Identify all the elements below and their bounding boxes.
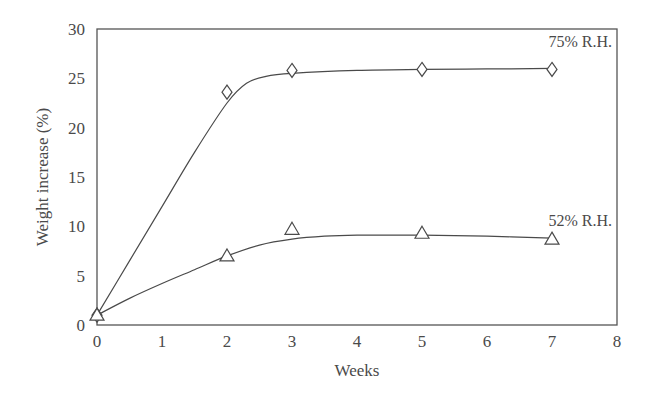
x-axis-ticks: 012345678 [93,332,622,351]
y-tick-label: 20 [68,119,85,138]
x-tick-label: 6 [483,332,492,351]
y-axis-title: Weight increase (%) [33,108,52,246]
x-tick-label: 4 [353,332,362,351]
series-layer [90,62,559,322]
series-52rh [90,222,559,320]
y-tick-label: 10 [68,217,85,236]
x-tick-label: 3 [288,332,297,351]
y-tick-label: 0 [77,316,86,335]
diamond-marker [222,85,232,99]
triangle-marker [220,249,234,261]
fit-curve [97,68,552,315]
y-axis-ticks: 051015202530 [68,20,85,335]
y-tick-label: 15 [68,168,85,187]
y-tick-label: 5 [77,267,86,286]
x-tick-label: 2 [223,332,232,351]
diamond-marker [547,62,557,76]
plot-border [97,29,617,325]
chart: 051015202530 012345678 Weeks Weight incr… [0,0,653,399]
triangle-marker [415,226,429,238]
x-tick-label: 8 [613,332,622,351]
x-axis-title: Weeks [335,361,380,380]
y-tick-label: 25 [68,69,85,88]
diamond-marker [287,63,297,77]
x-tick-label: 0 [93,332,102,351]
fit-curve [97,235,552,315]
plot-frame [97,29,617,325]
diamond-marker [417,62,427,76]
series-label-52rh: 52% R.H. [548,212,612,229]
x-tick-label: 1 [158,332,167,351]
y-tick-label: 30 [68,20,85,39]
triangle-marker [285,222,299,234]
series-label-75rh: 75% R.H. [548,33,612,50]
x-tick-label: 7 [548,332,557,351]
x-tick-label: 5 [418,332,427,351]
